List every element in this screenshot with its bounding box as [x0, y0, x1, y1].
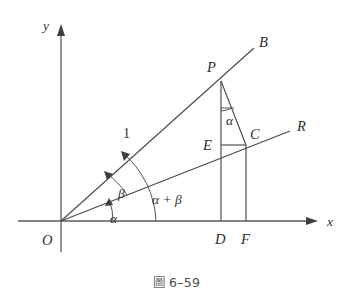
segment-PC [221, 81, 246, 145]
angle-label-alpha-origin: α [110, 211, 118, 226]
figure-caption: 圖6–59 [0, 272, 353, 291]
caption-number: 6–59 [169, 275, 200, 290]
caption-symbol: 圖 [153, 272, 166, 291]
angle-label-beta-origin: β [117, 186, 125, 201]
point-label-D: D [214, 231, 226, 247]
geometry-diagram: y x O P B C R E D F 1 α β α + β α [0, 0, 353, 305]
y-axis-label: y [41, 18, 49, 33]
segment-length-label-OP: 1 [123, 126, 130, 141]
angle-label-alpha-at-P: α [226, 113, 234, 128]
construction-group [221, 81, 246, 221]
arc-alpha-plus-beta [123, 153, 156, 221]
point-label-F: F [240, 231, 250, 247]
x-axis-arrowhead [306, 217, 318, 225]
point-label-C: C [250, 126, 260, 142]
x-axis-label: x [326, 214, 333, 229]
y-axis-arrowhead [57, 24, 65, 36]
point-label-O: O [42, 232, 53, 248]
point-label-R: R [296, 118, 306, 134]
figure-container: y x O P B C R E D F 1 α β α + β α 圖6–59 [0, 0, 353, 305]
angle-label-alpha-plus-beta: α + β [152, 192, 182, 207]
arc-alpha-origin-arrowhead [105, 198, 113, 206]
labels-group: y x O P B C R E D F 1 α β α + β α [41, 18, 333, 248]
point-label-E: E [202, 137, 212, 153]
point-label-P: P [206, 59, 216, 75]
arc-alpha-plus-beta-arrowhead [121, 151, 130, 161]
point-label-B: B [259, 34, 268, 50]
ray-OR [61, 131, 290, 221]
